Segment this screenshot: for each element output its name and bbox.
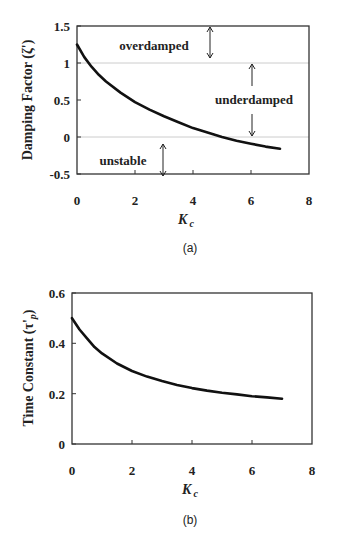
y-tick-label: 0.4 (49, 336, 66, 351)
panel-label-b: (b) (183, 513, 198, 527)
y-tick-label: 0.6 (49, 286, 66, 301)
x-tick-label: 4 (190, 193, 197, 208)
y-tick-label: 1.5 (54, 19, 71, 34)
x-tick-label: 8 (306, 193, 313, 208)
x-tick-label: 2 (129, 463, 136, 478)
panel-label-a: (a) (183, 241, 198, 255)
y-axis-title: Damping Factor (ζ') (20, 39, 36, 160)
time-constant-curve (72, 318, 282, 399)
y-tick-label: 0 (64, 130, 71, 145)
time-constant-plot: 0.6 0.4 0.2 0 0 2 4 6 8 Kc Time Constant… (0, 270, 337, 544)
damping-factor-chart: 1.5 1 0.5 0 -0.5 0 2 4 6 8 Kc Damping Fa… (0, 0, 337, 270)
x-tick-label: 6 (249, 463, 256, 478)
plot-frame (72, 293, 312, 444)
underdamped-label: underdamped (215, 92, 294, 107)
x-axis-title: Kc (177, 212, 194, 229)
x-tick-label: 4 (189, 463, 196, 478)
y-tick-label: 0.5 (54, 93, 71, 108)
y-tick-label: 0 (59, 437, 66, 452)
y-tick-label: 0.2 (49, 387, 65, 402)
x-tick-label: 6 (248, 193, 255, 208)
y-tick-label: -0.5 (49, 167, 70, 182)
damping-factor-plot: 1.5 1 0.5 0 -0.5 0 2 4 6 8 Kc Damping Fa… (0, 0, 337, 270)
x-tick-label: 2 (132, 193, 139, 208)
y-axis-title: Time Constant (τ'p) (21, 309, 38, 426)
time-constant-chart: 0.6 0.4 0.2 0 0 2 4 6 8 Kc Time Constant… (0, 270, 337, 544)
unstable-label: unstable (100, 153, 147, 168)
overdamped-label: overdamped (119, 38, 189, 53)
x-tick-label: 8 (309, 463, 316, 478)
x-axis-title: Kc (181, 482, 198, 499)
x-tick-label: 0 (74, 193, 81, 208)
y-tick-label: 1 (64, 56, 71, 71)
x-tick-label: 0 (69, 463, 76, 478)
